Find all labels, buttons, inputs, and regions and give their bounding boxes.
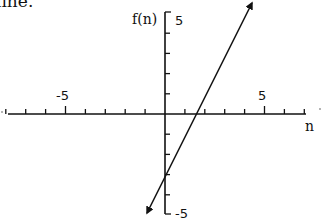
y-axis [165,12,171,214]
x-tick-label-5: 5 [258,88,266,103]
y-tick-label-5: 5 [175,13,183,28]
stray-dot [1,111,3,113]
chart-canvas: f(n) 5 -5 -5 5 n [0,0,324,221]
function-line [147,3,252,213]
y-tick-label-neg5: -5 [175,206,188,221]
x-axis [6,106,306,114]
x-axis-label: n [305,118,314,134]
x-tick-label-neg5: -5 [56,88,69,103]
stray-dot [319,108,321,110]
y-axis-label: f(n) [132,11,157,27]
